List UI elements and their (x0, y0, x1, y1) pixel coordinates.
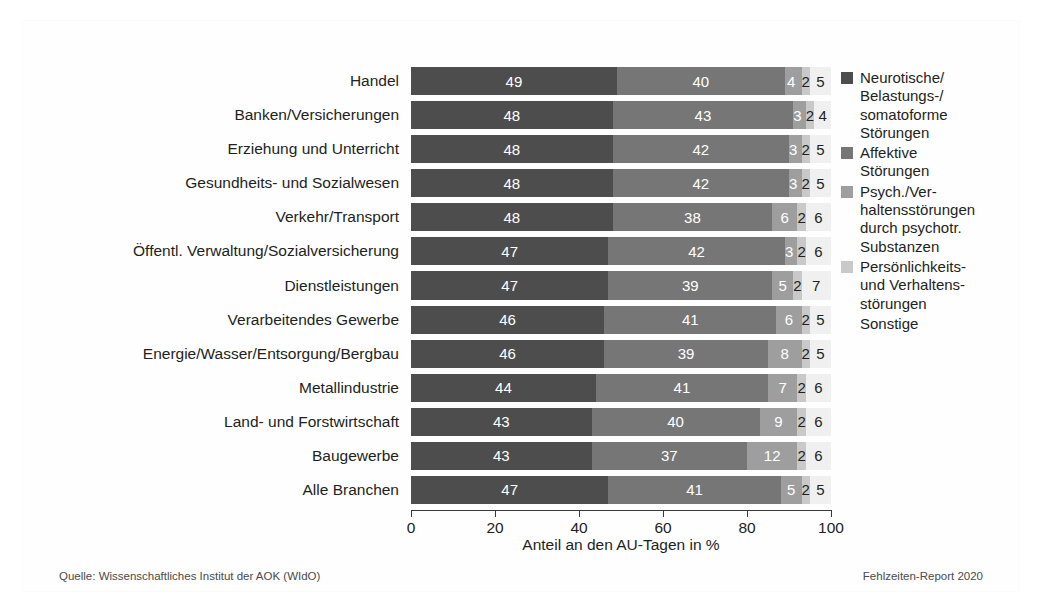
bar-segment: 2 (806, 101, 814, 129)
legend-label: Neurotische/ Belastungs-/ somatoforme St… (860, 69, 948, 142)
legend-item[interactable]: Psych./Ver- haltensstörungen durch psych… (841, 183, 1042, 256)
bar-value-label: 48 (503, 209, 520, 226)
legend-item[interactable]: Affektive Störungen (841, 144, 1042, 181)
bar-value-label: 47 (501, 481, 518, 498)
x-tick-label: 100 (818, 519, 844, 537)
source-note: Quelle: Wissenschaftliches Institut der … (59, 570, 320, 582)
bar-value-label: 6 (781, 209, 789, 226)
bar-segment: 2 (793, 271, 801, 299)
bar-segment: 4 (814, 101, 831, 129)
bar-value-label: 46 (499, 311, 516, 328)
bar-value-label: 12 (764, 447, 781, 464)
bar-value-label: 2 (802, 141, 810, 158)
bar-segment: 46 (411, 306, 604, 334)
bar-row: 4441726 (411, 374, 831, 402)
bar-row: 4340926 (411, 408, 831, 436)
bar-segment: 48 (411, 101, 613, 129)
category-label: Verkehr/Transport (276, 209, 399, 225)
category-label: Energie/Wasser/Entsorgung/Bergbau (143, 346, 399, 362)
legend-label: Sonstige (860, 315, 918, 333)
bar-segment: 3 (789, 135, 802, 163)
x-tick-label: 20 (486, 519, 503, 537)
category-label: Handel (350, 73, 399, 89)
legend-item[interactable]: Persönlichkeits- und Verhaltens- störung… (841, 258, 1042, 313)
bar-segment: 42 (613, 135, 789, 163)
bar-segment: 5 (810, 306, 831, 334)
bar-value-label: 42 (692, 175, 709, 192)
bar-row: 4838626 (411, 203, 831, 231)
legend-label: Persönlichkeits- und Verhaltens- störung… (860, 258, 966, 313)
legend-swatch-icon (841, 147, 853, 159)
bar-value-label: 43 (493, 413, 510, 430)
bar-segment: 8 (768, 340, 802, 368)
x-tick (663, 510, 664, 517)
bar-value-label: 2 (797, 413, 805, 430)
bar-segment: 39 (604, 340, 768, 368)
bar-segment: 38 (613, 203, 773, 231)
x-tick (411, 510, 412, 517)
bar-row: 43371226 (411, 442, 831, 470)
bar-value-label: 6 (814, 209, 822, 226)
bar-segment: 40 (617, 67, 785, 95)
category-label: Alle Branchen (302, 482, 399, 498)
x-tick-label: 40 (570, 519, 587, 537)
bar-segment: 41 (596, 374, 768, 402)
bar-segment: 41 (608, 476, 780, 504)
x-tick-label: 60 (654, 519, 671, 537)
bar-segment: 39 (608, 271, 772, 299)
bar-row: 4739527 (411, 271, 831, 299)
bar-value-label: 6 (814, 243, 822, 260)
bar-row: 4842325 (411, 169, 831, 197)
bar-value-label: 2 (802, 345, 810, 362)
bar-segment: 44 (411, 374, 596, 402)
bar-segment: 43 (613, 101, 794, 129)
bar-segment: 6 (772, 203, 797, 231)
bar-value-label: 6 (814, 413, 822, 430)
bar-row: 4842325 (411, 135, 831, 163)
bar-segment: 5 (772, 271, 793, 299)
bar-value-label: 2 (802, 175, 810, 192)
category-label: Öffentl. Verwaltung/Sozialversicherung (133, 243, 399, 259)
bar-segment: 40 (592, 408, 760, 436)
bar-segment: 47 (411, 237, 608, 265)
bar-value-label: 48 (503, 175, 520, 192)
bar-value-label: 44 (495, 379, 512, 396)
bar-value-label: 5 (816, 175, 824, 192)
legend: Neurotische/ Belastungs-/ somatoforme St… (841, 69, 1042, 335)
bar-segment: 49 (411, 67, 617, 95)
bar-segment: 2 (797, 203, 805, 231)
bar-segment: 3 (793, 101, 806, 129)
bar-value-label: 8 (781, 345, 789, 362)
bar-segment: 5 (810, 135, 831, 163)
bar-segment: 2 (802, 476, 810, 504)
bar-value-label: 6 (814, 379, 822, 396)
bar-segment: 2 (802, 306, 810, 334)
bar-value-label: 40 (667, 413, 684, 430)
bar-segment: 43 (411, 408, 592, 436)
bar-value-label: 3 (785, 243, 793, 260)
bar-value-label: 5 (816, 481, 824, 498)
bar-value-label: 5 (816, 311, 824, 328)
bar-value-label: 42 (688, 243, 705, 260)
x-tick-label: 80 (738, 519, 755, 537)
bar-value-label: 9 (774, 413, 782, 430)
x-tick (831, 510, 832, 517)
bar-value-label: 5 (816, 141, 824, 158)
bar-value-label: 3 (789, 175, 797, 192)
bar-row: 4639825 (411, 340, 831, 368)
bar-segment: 5 (810, 169, 831, 197)
legend-item[interactable]: Sonstige (841, 315, 1042, 333)
bar-segment: 37 (592, 442, 747, 470)
bar-value-label: 39 (678, 345, 695, 362)
legend-item[interactable]: Neurotische/ Belastungs-/ somatoforme St… (841, 69, 1042, 142)
bar-value-label: 38 (684, 209, 701, 226)
category-label: Dienstleistungen (284, 278, 399, 294)
bar-segment: 2 (802, 135, 810, 163)
bar-segment: 2 (797, 374, 805, 402)
bar-segment: 9 (760, 408, 798, 436)
bar-segment: 6 (806, 442, 831, 470)
bar-value-label: 5 (787, 481, 795, 498)
bar-value-label: 7 (812, 277, 820, 294)
bar-value-label: 41 (686, 481, 703, 498)
bar-segment: 48 (411, 135, 613, 163)
